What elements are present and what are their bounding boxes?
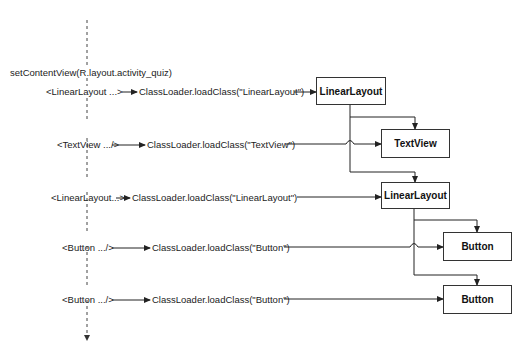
view-box-linearlayout-nested: LinearLayout xyxy=(381,182,450,209)
loadclass-call-button-2: ClassLoader.loadClass("Button") xyxy=(152,294,290,306)
xml-tag-textview: <TextView .../> xyxy=(57,139,119,151)
lifeline-arrow-icon xyxy=(84,335,90,341)
loadclass-call-linearlayout-nested: ClassLoader.loadClass("LinearLayout") xyxy=(132,192,297,204)
view-box-textview: TextView xyxy=(381,129,450,158)
xml-tag-button-2: <Button .../> xyxy=(62,294,114,306)
view-box-linearlayout-root: LinearLayout xyxy=(316,77,386,105)
loadclass-call-textview: ClassLoader.loadClass("TextView") xyxy=(147,139,295,151)
entry-call: setContentView(R.layout.activity_quiz) xyxy=(10,67,172,79)
xml-tag-linearlayout: <LinearLayout ...> xyxy=(46,86,123,98)
view-box-button-1: Button xyxy=(443,232,512,261)
loadclass-call-linearlayout: ClassLoader.loadClass("LinearLayout") xyxy=(139,86,304,98)
view-box-button-2: Button xyxy=(443,285,512,314)
xml-tag-button-1: <Button .../> xyxy=(62,242,114,254)
loadclass-call-button-1: ClassLoader.loadClass("Button") xyxy=(152,242,290,254)
xml-tag-linearlayout-nested: <LinearLayout...> xyxy=(51,192,125,204)
